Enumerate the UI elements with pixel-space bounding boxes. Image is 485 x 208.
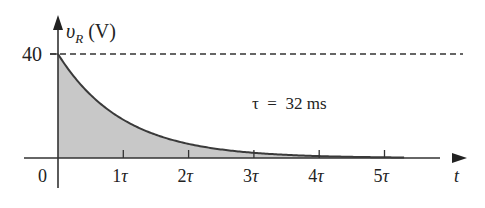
x-tick-label-4: 4τ	[308, 166, 324, 186]
y-tick-label-40: 40	[22, 43, 42, 65]
rc-decay-chart: 40 υR (V) 0 t τ = 32 ms 1τ2τ3τ4τ5τ	[0, 0, 485, 208]
tau-annotation: τ = 32 ms	[252, 94, 327, 113]
x-axis-arrow-icon	[452, 153, 467, 163]
y-axis-unit: (V)	[83, 20, 116, 43]
y-axis-label: υR (V)	[66, 20, 116, 46]
x-tick-label-5: 5τ	[374, 166, 390, 186]
y-axis-arrow-icon	[53, 15, 63, 30]
x-tick-label-2: 2τ	[178, 166, 194, 186]
y-axis-subscript: R	[74, 31, 83, 46]
x-axis-label: t	[454, 166, 460, 186]
curve-fill-area	[58, 54, 404, 158]
y-axis-symbol: υ	[66, 20, 75, 42]
x-tick-label-1: 1τ	[112, 166, 128, 186]
x-tick-labels: 1τ2τ3τ4τ5τ	[112, 166, 389, 186]
x-tick-label-3: 3τ	[243, 166, 259, 186]
x-origin-label: 0	[38, 166, 47, 186]
